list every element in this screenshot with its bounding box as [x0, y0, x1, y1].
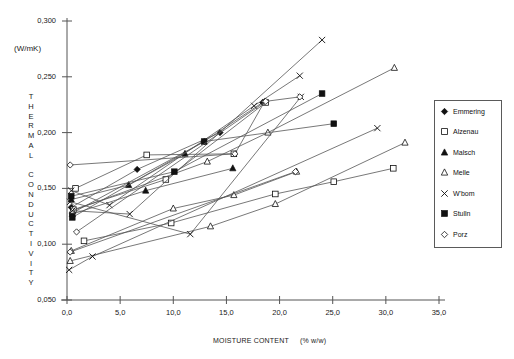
- series-porz: [67, 169, 299, 256]
- legend-item-porz[interactable]: Porz: [435, 224, 501, 245]
- series-alzenau: [73, 151, 237, 191]
- legend-marker-filled-triangle-icon: [440, 148, 449, 157]
- legend-item-wbom[interactable]: W'bom: [435, 183, 501, 204]
- legend-item-emmering[interactable]: Emmering: [435, 101, 501, 122]
- x-tick-label: 5,0: [108, 308, 132, 317]
- x-axis-title: MOISTURE CONTENT: [213, 337, 289, 344]
- series-line: [69, 128, 377, 270]
- marker-open-square: [442, 129, 448, 135]
- x-tick-label: 35,0: [427, 308, 451, 317]
- legend-marker-open-triangle-icon: [440, 168, 449, 177]
- y-tick-label: 0,200: [26, 128, 56, 137]
- x-tick-label: 30,0: [374, 308, 398, 317]
- legend-marker-cross-icon: [440, 189, 449, 198]
- marker-open-triangle: [402, 139, 408, 145]
- legend-item-label: Porz: [453, 231, 467, 238]
- marker-filled-diamond: [134, 166, 140, 172]
- x-tick-label: 10,0: [161, 308, 185, 317]
- marker-open-square: [81, 238, 87, 244]
- series-alzenau: [81, 166, 396, 244]
- marker-open-square: [331, 179, 337, 185]
- y-tick-label: 0,300: [26, 16, 56, 25]
- x-tick-label: 0,0: [55, 308, 79, 317]
- legend-item-label: Malsch: [453, 149, 475, 156]
- marker-open-triangle: [391, 64, 397, 70]
- marker-cross: [441, 190, 447, 196]
- series-emmering: [69, 99, 265, 216]
- legend-item-malsch[interactable]: Malsch: [435, 142, 501, 163]
- marker-open-square: [390, 166, 396, 172]
- legend-item-alzenau[interactable]: Alzenau: [435, 122, 501, 143]
- y-tick-label: 0,050: [26, 295, 56, 304]
- series-line: [71, 133, 220, 208]
- marker-open-diamond: [441, 231, 447, 237]
- legend-marker-open-diamond-icon: [440, 230, 449, 239]
- marker-cross: [187, 231, 193, 237]
- marker-open-square: [144, 152, 150, 158]
- marker-filled-square: [319, 91, 325, 97]
- y-tick-label: 0,150: [26, 183, 56, 192]
- marker-open-square: [273, 191, 279, 197]
- marker-open-diamond: [297, 94, 303, 100]
- legend-marker-open-square-icon: [440, 127, 449, 136]
- marker-filled-square: [172, 169, 178, 175]
- marker-filled-diamond: [441, 108, 447, 114]
- series-wbom: [68, 73, 303, 209]
- legend-marker-filled-square-icon: [440, 209, 449, 218]
- marker-cross: [319, 37, 325, 43]
- x-tick-label: 25,0: [321, 308, 345, 317]
- marker-open-diamond: [73, 229, 79, 235]
- legend-item-stulln[interactable]: Stulln: [435, 204, 501, 225]
- marker-cross: [374, 125, 380, 131]
- legend-item-label: Stulln: [453, 210, 471, 217]
- x-tick-label: 20,0: [268, 308, 292, 317]
- legend: EmmeringAlzenauMalschMelleW'bomStullnPor…: [434, 100, 502, 248]
- x-axis-unit: (% w/w): [300, 337, 326, 344]
- marker-filled-triangle: [230, 165, 236, 171]
- marker-filled-square: [70, 215, 76, 221]
- marker-filled-triangle: [441, 149, 447, 155]
- marker-cross: [297, 73, 303, 79]
- series-line: [72, 40, 322, 214]
- y-tick-label: 0,250: [26, 72, 56, 81]
- series-porz: [67, 98, 268, 168]
- y-tick-label: 0,100: [26, 239, 56, 248]
- legend-item-label: Emmering: [453, 108, 485, 115]
- chart-figure: (W/mK) THERMAL CONDUCTIVITY MOISTURE CON…: [0, 0, 514, 359]
- series-line: [70, 172, 295, 252]
- x-tick-label: 15,0: [214, 308, 238, 317]
- marker-cross: [89, 253, 95, 259]
- series-wbom: [66, 125, 380, 273]
- legend-item-label: W'bom: [453, 190, 475, 197]
- marker-filled-square: [68, 193, 74, 199]
- marker-open-triangle: [272, 201, 278, 207]
- legend-item-melle[interactable]: Melle: [435, 163, 501, 184]
- legend-item-label: Melle: [453, 169, 470, 176]
- marker-filled-square: [331, 121, 337, 127]
- series-line: [84, 168, 393, 241]
- marker-open-diamond: [67, 162, 73, 168]
- marker-filled-square: [442, 211, 448, 217]
- legend-item-label: Alzenau: [453, 128, 478, 135]
- marker-open-triangle: [441, 169, 447, 175]
- marker-open-triangle: [204, 158, 210, 164]
- legend-marker-filled-diamond-icon: [440, 107, 449, 116]
